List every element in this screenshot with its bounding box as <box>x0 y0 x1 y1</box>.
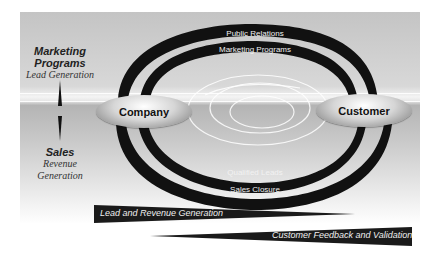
cycle-diagram <box>0 0 440 259</box>
arc-label-qualified-leads: Qualified Leads <box>210 168 300 177</box>
arc-sales-closure <box>116 124 392 210</box>
company-node: Company <box>96 95 192 128</box>
arc-label-public-relations: Public Relations <box>210 29 300 38</box>
arc-label-marketing-programs: Marketing Programs <box>205 45 305 54</box>
arc-label-sales-closure: Sales Closure <box>210 185 300 194</box>
sales-subtitle-line1: Revenue <box>20 158 100 170</box>
sales-block: Sales Revenue Generation <box>20 146 100 182</box>
marketing-programs-block: Marketing Programs Lead Generation <box>20 45 100 81</box>
marketing-subtitle: Lead Generation <box>20 69 100 81</box>
arrow-down-icon <box>58 116 62 141</box>
customer-node: Customer <box>316 94 412 127</box>
company-label: Company <box>119 106 169 118</box>
marketing-title-line1: Marketing <box>20 45 100 57</box>
sales-title: Sales <box>20 146 100 158</box>
banner-feedback-label: Customer Feedback and Validation <box>272 230 412 240</box>
swirl-lines <box>188 75 328 145</box>
arrow-up-icon <box>58 80 62 106</box>
banner-forward-label: Lead and Revenue Generation <box>100 208 223 218</box>
sales-subtitle-line2: Generation <box>20 170 100 182</box>
marketing-title-line2: Programs <box>20 57 100 69</box>
customer-label: Customer <box>338 105 389 117</box>
